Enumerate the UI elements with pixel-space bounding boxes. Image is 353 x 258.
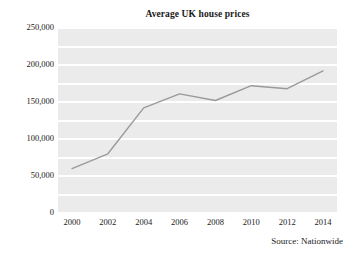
- y-axis-tick-label: 250,000: [2, 23, 54, 32]
- y-axis-tick-label: 100,000: [2, 134, 54, 143]
- plot-area: [58, 28, 337, 213]
- y-axis-tick-label: 200,000: [2, 60, 54, 69]
- chart-title: Average UK house prices: [58, 8, 337, 20]
- chart-figure: Average UK house prices 050,000100,00015…: [0, 0, 353, 258]
- x-axis: 20002002200420062008201020122014: [58, 217, 337, 231]
- y-axis-tick-label: 150,000: [2, 97, 54, 106]
- x-axis-tick-label: 2002: [88, 217, 128, 228]
- series-line-average-uk-house-price: [72, 71, 323, 169]
- y-axis: 050,000100,000150,000200,000250,000: [0, 28, 54, 213]
- x-axis-tick-label: 2004: [124, 217, 164, 228]
- series-line-chart: [58, 28, 337, 213]
- x-axis-tick-label: 2000: [52, 217, 92, 228]
- x-axis-tick-label: 2014: [303, 217, 343, 228]
- y-axis-tick-label: 50,000: [2, 171, 54, 180]
- x-axis-tick-label: 2006: [160, 217, 200, 228]
- x-axis-tick-label: 2010: [231, 217, 271, 228]
- source-note: Source: Nationwide: [271, 236, 343, 247]
- x-axis-tick-label: 2012: [267, 217, 307, 228]
- y-axis-tick-label: 0: [2, 208, 54, 217]
- x-axis-tick-label: 2008: [195, 217, 235, 228]
